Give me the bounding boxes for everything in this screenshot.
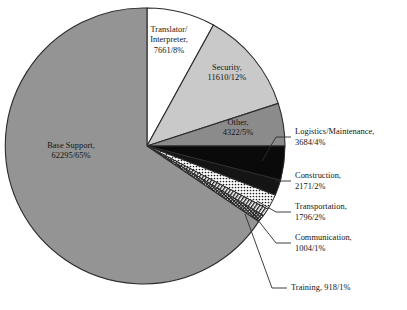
- pie-chart: Translator/ Interpreter, 7661/8% Securit…: [0, 0, 407, 310]
- slice-label-other: Other, 4322/5%: [207, 118, 269, 139]
- callout-label-construction: Construction, 2171/2%: [295, 171, 341, 192]
- callout-label-training-line1: Training, 918/1%: [291, 283, 351, 294]
- callout-label-logistics-maintenance-line2: 3684/4%: [295, 138, 374, 149]
- slice-label-translator-interpreter: Translator/ Interpreter, 7661/8%: [131, 25, 207, 56]
- slice-label-other-line2: 4322/5%: [207, 128, 269, 138]
- slice-label-security-line1: Security,: [190, 63, 264, 73]
- callout-label-transportation: Transportation, 1796/2%: [295, 202, 347, 223]
- callout-label-construction-line1: Construction,: [295, 171, 341, 182]
- callout-label-training: Training, 918/1%: [291, 283, 351, 294]
- callout-label-communication: Communication, 1004/1%: [295, 233, 352, 254]
- slice-label-base-support-line1: Base Support,: [30, 141, 112, 151]
- slice-label-base-support-line2: 62295/65%: [30, 151, 112, 161]
- slice-label-translator-interpreter-line2: Interpreter,: [131, 35, 207, 45]
- callout-label-logistics-maintenance-line1: Logistics/Maintenance,: [295, 127, 374, 138]
- slice-label-base-support: Base Support, 62295/65%: [30, 141, 112, 162]
- callout-label-communication-line2: 1004/1%: [295, 244, 352, 255]
- callout-label-transportation-line1: Transportation,: [295, 202, 347, 213]
- callout-label-construction-line2: 2171/2%: [295, 182, 341, 193]
- slice-label-security-line2: 11610/12%: [190, 73, 264, 83]
- callout-label-transportation-line2: 1796/2%: [295, 213, 347, 224]
- slice-label-security: Security, 11610/12%: [190, 63, 264, 84]
- slice-label-translator-interpreter-line1: Translator/: [131, 25, 207, 35]
- slice-label-other-line1: Other,: [207, 118, 269, 128]
- callout-label-logistics-maintenance: Logistics/Maintenance, 3684/4%: [295, 127, 374, 148]
- callout-label-communication-line1: Communication,: [295, 233, 352, 244]
- slice-label-translator-interpreter-line3: 7661/8%: [131, 46, 207, 56]
